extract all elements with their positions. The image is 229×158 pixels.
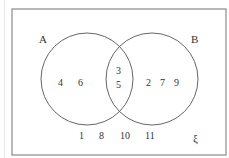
element-intersection: 3 — [116, 65, 121, 76]
element-outside: 10 — [120, 130, 130, 141]
element-a-only: 4 — [58, 77, 63, 88]
universal-set-symbol: ξ — [193, 132, 198, 145]
element-outside: 8 — [99, 130, 104, 141]
set-b-label: B — [191, 33, 198, 45]
element-outside: 11 — [145, 130, 155, 141]
element-b-only: 9 — [174, 77, 179, 88]
element-a-only: 6 — [78, 77, 83, 88]
set-a-label: A — [39, 33, 47, 45]
element-b-only: 7 — [160, 77, 165, 88]
venn-diagram: A B 4 6 3 5 2 7 9 1 8 10 11 ξ — [0, 0, 229, 158]
element-intersection: 5 — [116, 79, 121, 90]
element-b-only: 2 — [146, 77, 151, 88]
element-outside: 1 — [79, 130, 84, 141]
